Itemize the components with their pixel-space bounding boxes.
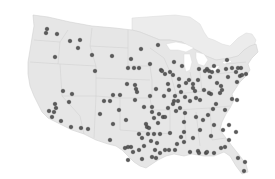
location-marker bbox=[203, 69, 207, 73]
location-marker bbox=[178, 106, 182, 110]
location-marker bbox=[171, 102, 175, 106]
location-marker bbox=[124, 118, 128, 122]
location-marker bbox=[208, 75, 212, 79]
location-marker bbox=[90, 53, 94, 57]
location-marker bbox=[209, 134, 213, 138]
location-marker bbox=[211, 107, 215, 111]
location-marker bbox=[149, 139, 153, 143]
location-marker bbox=[152, 116, 156, 120]
location-marker bbox=[162, 94, 166, 98]
location-marker bbox=[98, 112, 102, 116]
location-marker bbox=[148, 62, 152, 66]
location-marker bbox=[137, 66, 141, 70]
location-marker bbox=[212, 64, 216, 68]
location-marker bbox=[230, 97, 234, 101]
location-marker bbox=[240, 73, 244, 77]
location-marker bbox=[225, 58, 229, 62]
location-marker bbox=[234, 130, 238, 134]
location-marker bbox=[52, 110, 56, 114]
location-marker bbox=[188, 150, 192, 154]
location-marker bbox=[79, 126, 83, 130]
location-marker bbox=[171, 73, 175, 77]
location-marker bbox=[182, 120, 186, 124]
location-marker bbox=[187, 78, 191, 82]
location-marker bbox=[227, 123, 231, 127]
location-marker bbox=[142, 144, 146, 148]
location-marker bbox=[184, 81, 188, 85]
location-marker bbox=[168, 131, 172, 135]
location-marker bbox=[110, 54, 114, 58]
location-marker bbox=[224, 67, 228, 71]
location-marker bbox=[191, 136, 195, 140]
location-marker bbox=[167, 148, 171, 152]
location-marker bbox=[102, 99, 106, 103]
location-marker bbox=[212, 151, 216, 155]
location-marker bbox=[53, 102, 57, 106]
location-marker bbox=[207, 91, 211, 95]
location-marker bbox=[129, 57, 133, 61]
location-marker bbox=[59, 119, 63, 123]
location-marker bbox=[196, 78, 200, 82]
location-marker bbox=[221, 128, 225, 132]
location-marker bbox=[198, 128, 202, 132]
location-marker bbox=[172, 60, 176, 64]
location-marker bbox=[220, 88, 224, 92]
location-marker bbox=[137, 132, 141, 136]
location-marker bbox=[131, 150, 135, 154]
location-marker bbox=[227, 138, 231, 142]
location-marker bbox=[93, 69, 97, 73]
location-marker bbox=[177, 84, 181, 88]
location-marker bbox=[223, 108, 227, 112]
location-marker bbox=[219, 84, 223, 88]
location-marker bbox=[163, 72, 167, 76]
location-marker bbox=[68, 39, 72, 43]
location-marker bbox=[108, 99, 112, 103]
location-marker bbox=[50, 115, 54, 119]
location-marker bbox=[154, 87, 158, 91]
location-marker bbox=[226, 75, 230, 79]
location-marker bbox=[126, 158, 130, 162]
location-marker bbox=[137, 148, 141, 152]
location-marker bbox=[206, 113, 210, 117]
location-marker bbox=[45, 27, 49, 31]
location-marker bbox=[166, 106, 170, 110]
location-marker bbox=[205, 150, 209, 154]
location-marker bbox=[210, 70, 214, 74]
location-marker bbox=[157, 112, 161, 116]
location-marker bbox=[243, 160, 247, 164]
location-marker bbox=[182, 140, 186, 144]
location-marker bbox=[55, 32, 59, 36]
location-marker bbox=[155, 141, 159, 145]
location-marker bbox=[173, 94, 177, 98]
location-marker bbox=[242, 169, 246, 173]
location-marker bbox=[47, 109, 51, 113]
location-marker bbox=[198, 98, 202, 102]
location-marker bbox=[215, 81, 219, 85]
location-marker bbox=[180, 64, 184, 68]
location-marker bbox=[244, 72, 248, 76]
location-marker bbox=[67, 100, 71, 104]
location-marker bbox=[154, 156, 158, 160]
location-marker bbox=[117, 108, 121, 112]
location-marker bbox=[197, 67, 201, 71]
location-marker bbox=[191, 82, 195, 86]
location-marker bbox=[197, 151, 201, 155]
location-marker bbox=[76, 46, 80, 50]
location-marker bbox=[69, 125, 73, 129]
location-marker bbox=[177, 77, 181, 81]
location-marker bbox=[168, 70, 172, 74]
location-marker bbox=[61, 89, 65, 93]
location-marker bbox=[126, 66, 130, 70]
location-marker bbox=[148, 94, 152, 98]
location-marker bbox=[223, 145, 227, 149]
location-marker bbox=[133, 83, 137, 87]
location-marker bbox=[219, 146, 223, 150]
location-marker bbox=[212, 123, 216, 127]
location-marker bbox=[78, 38, 82, 42]
location-marker bbox=[235, 80, 239, 84]
location-marker bbox=[163, 148, 167, 152]
location-marker bbox=[183, 111, 187, 115]
location-marker bbox=[156, 43, 160, 47]
location-marker bbox=[236, 156, 240, 160]
location-marker bbox=[70, 92, 74, 96]
